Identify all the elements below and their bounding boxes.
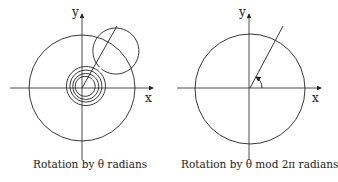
right-caption: Rotation by θ mod 2π radians [181,158,338,170]
right-unit-circle [195,34,305,144]
left-diagram [10,14,153,160]
left-y-axis-label: y [72,5,79,19]
right-diagram [177,14,321,160]
right-rotation-ray [250,26,283,88]
left-x-axis-label: x [145,91,152,105]
left-caption: Rotation by θ radians [33,158,147,170]
right-angle-arc [256,77,262,88]
right-y-axis-label: y [239,5,246,19]
right-x-axis-label: x [312,91,319,105]
